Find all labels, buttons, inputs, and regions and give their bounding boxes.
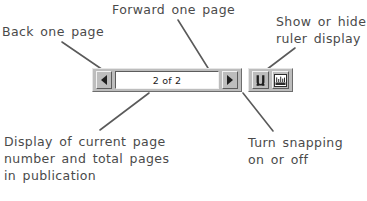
callout-page-display-line-2: number and total pages	[4, 150, 169, 167]
snap-to-guides-button[interactable]	[252, 71, 269, 89]
callout-back-one-page: Back one page	[2, 23, 104, 40]
forward-one-page-button[interactable]	[222, 71, 238, 89]
callout-ruler-line-2: ruler display	[276, 30, 366, 47]
triangle-right-icon	[227, 75, 233, 85]
back-one-page-button[interactable]	[96, 71, 112, 89]
callout-back-line-1: Back one page	[2, 23, 104, 40]
triangle-left-icon	[101, 75, 107, 85]
callout-page-display: Display of current page number and total…	[4, 133, 169, 184]
callout-forward-one-page: Forward one page	[112, 1, 235, 18]
ruler-and-snapping-group	[248, 68, 293, 92]
page-navigation-group: 2 of 2	[92, 68, 242, 92]
page-navigation-toolbar: 2 of 2	[92, 68, 293, 92]
callout-page-display-line-1: Display of current page	[4, 133, 169, 150]
magnet-icon	[255, 74, 266, 87]
leader-line-back	[62, 42, 103, 70]
callout-show-or-hide-ruler: Show or hide ruler display	[276, 13, 366, 47]
ruler-icon	[274, 74, 287, 87]
leader-line-ruler	[266, 48, 295, 70]
callout-page-display-line-3: in publication	[4, 167, 169, 184]
page-number-value: 2 of 2	[153, 75, 182, 86]
page-number-field[interactable]: 2 of 2	[115, 71, 219, 89]
leader-line-forward	[178, 20, 208, 68]
callout-snapping-line-1: Turn snapping	[248, 134, 343, 151]
callout-forward-line-1: Forward one page	[112, 1, 235, 18]
leader-line-page-display	[100, 93, 149, 130]
show-hide-ruler-button[interactable]	[272, 71, 289, 89]
leader-line-snapping	[243, 93, 273, 131]
callout-turn-snapping: Turn snapping on or off	[248, 134, 343, 168]
callout-snapping-line-2: on or off	[248, 151, 343, 168]
callout-ruler-line-1: Show or hide	[276, 13, 366, 30]
